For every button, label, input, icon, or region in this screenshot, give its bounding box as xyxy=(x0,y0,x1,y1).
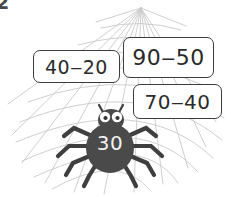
worksheet-illustration: 2 30 40‒20 90‒50 70‒40 xyxy=(0,0,231,197)
expression-box-2[interactable]: 90‒50 xyxy=(123,37,214,78)
expression-box-1[interactable]: 40‒20 xyxy=(33,50,120,83)
spider-pupil-right xyxy=(115,116,119,120)
item-number: 2 xyxy=(0,0,9,12)
expression-box-3[interactable]: 70‒40 xyxy=(133,84,222,119)
spider-value-label: 30 xyxy=(90,133,130,153)
spider-pupil-left xyxy=(103,116,107,120)
